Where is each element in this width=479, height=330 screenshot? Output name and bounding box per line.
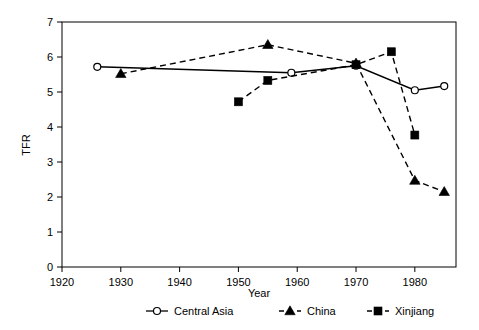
marker-filled-triangle xyxy=(263,40,273,49)
y-axis-tick-label: 5 xyxy=(47,86,53,98)
series-china xyxy=(116,40,450,196)
marker-filled-square xyxy=(264,76,272,84)
y-axis-title: TFR xyxy=(20,134,32,155)
y-axis-tick-label: 2 xyxy=(47,191,53,203)
x-axis-tick-label: 1960 xyxy=(285,276,309,288)
x-axis-tick-label: 1970 xyxy=(344,276,368,288)
marker-open-circle xyxy=(154,308,161,315)
y-axis-tick-label: 7 xyxy=(47,16,53,28)
marker-filled-triangle xyxy=(439,187,449,196)
marker-filled-square xyxy=(352,61,360,69)
marker-filled-triangle xyxy=(285,306,295,315)
x-axis-tick-label: 1940 xyxy=(167,276,191,288)
series-line xyxy=(121,45,444,192)
x-axis-tick-label: 1980 xyxy=(403,276,427,288)
tfr-line-chart: 01234567 1920193019401950196019701980 TF… xyxy=(0,0,479,330)
marker-filled-square xyxy=(234,98,242,106)
chart-container: 01234567 1920193019401950196019701980 TF… xyxy=(0,0,479,330)
chart-legend: Central AsiaChinaXinjiang xyxy=(146,305,434,317)
legend-label: China xyxy=(307,305,337,317)
y-axis: 01234567 xyxy=(47,16,62,273)
y-axis-tick-label: 3 xyxy=(47,156,53,168)
marker-filled-square xyxy=(387,48,395,56)
legend-label: Xinjiang xyxy=(395,305,434,317)
y-axis-tick-label: 0 xyxy=(47,261,53,273)
x-axis-title: Year xyxy=(248,287,271,299)
y-axis-tick-label: 6 xyxy=(47,51,53,63)
y-axis-tick-label: 1 xyxy=(47,226,53,238)
data-series-group xyxy=(94,40,450,196)
legend-item-central-asia[interactable]: Central Asia xyxy=(146,305,234,317)
legend-label: Central Asia xyxy=(174,305,234,317)
series-line xyxy=(238,52,414,135)
marker-open-circle xyxy=(441,83,448,90)
x-axis: 1920193019401950196019701980 xyxy=(50,267,427,288)
marker-open-circle xyxy=(94,63,101,70)
legend-item-china[interactable]: China xyxy=(279,305,337,317)
marker-filled-triangle xyxy=(410,175,420,184)
marker-filled-square xyxy=(411,131,419,139)
marker-open-circle xyxy=(411,87,418,94)
series-xinjiang xyxy=(234,48,418,139)
x-axis-tick-label: 1930 xyxy=(109,276,133,288)
x-axis-tick-label: 1920 xyxy=(50,276,74,288)
legend-item-xinjiang[interactable]: Xinjiang xyxy=(367,305,434,317)
y-axis-tick-label: 4 xyxy=(47,121,53,133)
marker-filled-square xyxy=(374,307,382,315)
